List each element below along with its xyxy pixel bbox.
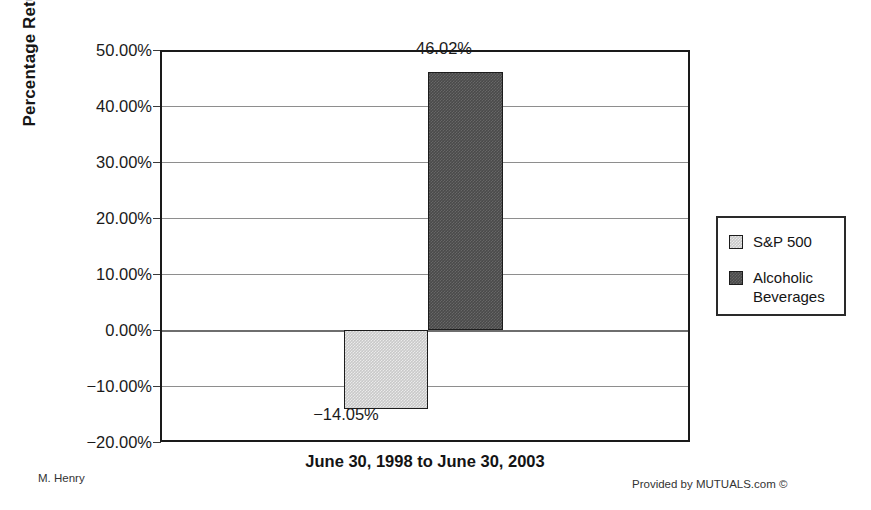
footnote-author: M. Henry [38,472,85,484]
legend-label-sp500: S&P 500 [753,232,812,251]
x-axis-title: June 30, 1998 to June 30, 2003 [160,452,690,471]
chart-page: Percentage Return 50.00% 40.00% 30.00% 2… [0,0,871,510]
bar-sp500[interactable] [344,330,428,409]
data-label-alcoholic-beverages: 46.02% [384,39,504,58]
y-tick-label-neg20: −20.00% [52,433,152,452]
legend-item-alcoholic-beverages[interactable]: Alcoholic Beverages [729,268,841,306]
legend-swatch-light-gray-icon [729,235,743,249]
plot-area [160,50,690,442]
legend-item-sp500[interactable]: S&P 500 [729,232,812,251]
footnote-provider: Provided by MUTUALS.com © [632,478,787,490]
gridline-40 [162,106,688,107]
y-tick-label-10: 10.00% [52,265,152,284]
bar-alcoholic-beverages[interactable] [428,72,503,330]
y-axis-title: Percentage Return [10,0,50,170]
legend-swatch-dark-gray-icon [729,271,743,285]
y-axis-tick-labels: 50.00% 40.00% 30.00% 20.00% 10.00% 0.00%… [52,0,152,510]
y-tick-label-0: 0.00% [52,321,152,340]
gridline-20 [162,218,688,219]
y-tick-label-neg10: −10.00% [52,377,152,396]
gridline-30 [162,162,688,163]
y-tick-label-40: 40.00% [52,97,152,116]
legend-label-alcoholic-beverages: Alcoholic Beverages [753,268,841,306]
y-tick-label-50: 50.00% [52,41,152,60]
y-tick-label-20: 20.00% [52,209,152,228]
data-label-sp500: −14.05% [286,405,406,424]
legend: S&P 500 Alcoholic Beverages [716,216,846,316]
gridline-10 [162,274,688,275]
y-tick-mark-neg20 [153,442,161,443]
y-tick-label-30: 30.00% [52,153,152,172]
